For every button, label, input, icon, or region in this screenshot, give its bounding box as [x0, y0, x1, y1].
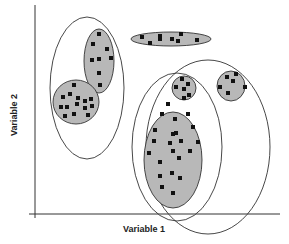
data-point	[166, 102, 170, 106]
data-point	[148, 41, 152, 45]
data-point	[75, 102, 79, 106]
data-point	[68, 92, 72, 96]
data-point	[177, 156, 181, 160]
data-point	[105, 47, 109, 51]
data-point	[158, 37, 162, 41]
data-point	[218, 85, 222, 89]
data-point	[160, 185, 164, 189]
data-point	[196, 140, 200, 144]
data-point	[182, 87, 186, 91]
data-point	[152, 139, 156, 143]
data-point	[178, 176, 182, 180]
data-point	[174, 85, 178, 89]
data-point	[179, 32, 183, 36]
cluster-small-center	[172, 76, 196, 100]
data-point	[168, 141, 172, 145]
data-point	[97, 32, 101, 36]
data-point	[59, 105, 63, 109]
x-axis-label: Variable 1	[123, 224, 165, 234]
data-point	[86, 113, 90, 117]
data-point	[65, 105, 69, 109]
data-point	[97, 71, 101, 75]
data-point	[76, 96, 80, 100]
data-point	[83, 99, 87, 103]
data-point	[191, 125, 195, 129]
data-point	[170, 37, 174, 41]
data-point	[188, 149, 192, 153]
data-point	[153, 128, 157, 132]
data-point	[226, 91, 230, 95]
data-point	[147, 151, 151, 155]
data-point	[234, 72, 238, 76]
data-point	[243, 85, 247, 89]
data-point	[97, 57, 101, 61]
data-point	[179, 139, 183, 143]
data-point	[182, 96, 186, 100]
data-point	[90, 58, 94, 62]
y-axis-label: Variable 2	[9, 85, 19, 145]
data-point	[195, 38, 199, 42]
data-point	[186, 112, 190, 116]
data-point	[98, 83, 102, 87]
cluster-diagram	[0, 0, 289, 244]
data-point	[140, 35, 144, 39]
data-point	[158, 174, 162, 178]
data-point	[90, 104, 94, 108]
data-point	[225, 75, 229, 79]
data-point	[174, 131, 178, 135]
data-point	[171, 191, 175, 195]
data-point	[61, 95, 65, 99]
data-point	[231, 79, 235, 83]
data-point	[186, 82, 190, 86]
data-point	[173, 117, 177, 121]
cluster-large-center	[144, 102, 202, 208]
data-point	[63, 114, 67, 118]
cluster-small-right	[217, 71, 247, 101]
data-point	[187, 93, 191, 97]
data-point	[72, 112, 76, 116]
data-point	[171, 149, 175, 153]
clusters	[53, 29, 247, 208]
data-point	[170, 171, 174, 175]
cluster-lower-left	[53, 80, 99, 124]
data-point	[89, 97, 93, 101]
data-point	[158, 160, 162, 164]
data-point	[72, 83, 76, 87]
data-point	[109, 56, 113, 60]
data-point	[91, 42, 95, 46]
data-point	[180, 77, 184, 81]
data-point	[160, 112, 164, 116]
cluster-top-elongated	[131, 32, 211, 46]
data-point	[176, 39, 180, 43]
data-point	[83, 106, 87, 110]
